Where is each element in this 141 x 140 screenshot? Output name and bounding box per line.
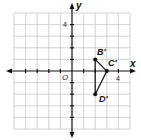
triangle-bcd (95, 59, 107, 94)
point-b-label: B′ (97, 47, 106, 57)
coordinate-plane: y x O 4 4 B′ C′ D′ (0, 0, 141, 140)
origin-label: O (62, 73, 68, 82)
x-axis-right-arrow-icon (130, 69, 136, 74)
y-tick-label-4: 4 (63, 21, 67, 28)
point-c (105, 69, 109, 73)
point-d (93, 92, 97, 96)
point-b (93, 57, 97, 61)
x-axis-label: x (129, 58, 136, 69)
y-axis-label: y (75, 0, 82, 11)
y-axis-up-arrow-icon (70, 3, 75, 9)
x-axis-left-arrow-icon (6, 69, 12, 74)
point-d-label: D′ (99, 94, 108, 104)
point-c-label: C′ (108, 58, 117, 68)
y-axis-down-arrow-icon (70, 132, 75, 138)
x-tick-label-4: 4 (116, 75, 120, 82)
